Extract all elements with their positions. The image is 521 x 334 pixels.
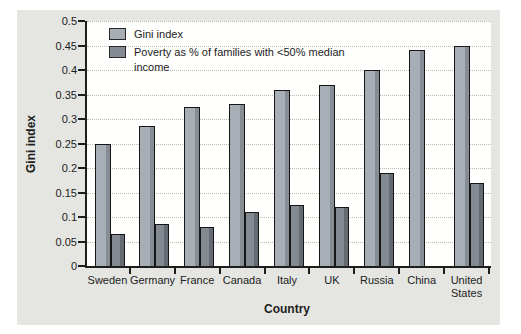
- x-category-label-united-states: United States: [444, 274, 489, 300]
- legend-item-gini: Gini index: [109, 27, 346, 41]
- x-category-label-canada: Canada: [220, 274, 265, 287]
- y-tick-mark-0.4: [78, 69, 85, 71]
- y-tick-label-0: 0: [25, 260, 77, 272]
- y-tick-mark-0.5: [78, 20, 85, 22]
- bar-gini-france: [184, 107, 200, 266]
- bar-poverty-canada: [245, 212, 259, 266]
- y-tick-mark-0.35: [78, 94, 85, 96]
- y-tick-label-0.25: 0.25: [25, 138, 77, 150]
- x-category-label-germany: Germany: [130, 274, 175, 287]
- y-tick-label-0.2: 0.2: [25, 162, 77, 174]
- gridline-0.5: [87, 21, 491, 22]
- bar-poverty-uk: [335, 207, 349, 266]
- x-category-label-china: China: [399, 274, 444, 287]
- y-tick-label-0.5: 0.5: [25, 15, 77, 27]
- y-tick-label-0.4: 0.4: [25, 64, 77, 76]
- bar-gini-russia: [364, 70, 380, 266]
- y-tick-mark-0.2: [78, 167, 85, 169]
- legend-swatch-gini: [109, 28, 126, 40]
- legend-label-poverty: Poverty as % of families with <50% media…: [134, 45, 346, 74]
- x-axis-title: Country: [85, 302, 489, 316]
- bar-gini-china: [409, 50, 425, 266]
- bar-poverty-germany: [155, 224, 169, 266]
- y-tick-mark-0.3: [78, 118, 85, 120]
- y-tick-mark-0.1: [78, 216, 85, 218]
- bar-gini-germany: [139, 126, 155, 266]
- y-tick-label-0.45: 0.45: [25, 40, 77, 52]
- legend: Gini index Poverty as % of families with…: [109, 27, 346, 78]
- y-tick-mark-0.15: [78, 192, 85, 194]
- bar-poverty-united-states: [470, 183, 484, 266]
- bar-poverty-sweden: [111, 234, 125, 266]
- y-tick-label-0.15: 0.15: [25, 187, 77, 199]
- y-tick-mark-0: [78, 265, 85, 267]
- y-tick-label-0.05: 0.05: [25, 236, 77, 248]
- y-tick-mark-0.05: [78, 241, 85, 243]
- y-tick-label-0.35: 0.35: [25, 89, 77, 101]
- plot-area: Gini index Poverty as % of families with…: [85, 21, 491, 268]
- x-category-label-russia: Russia: [354, 274, 399, 287]
- legend-item-poverty: Poverty as % of families with <50% media…: [109, 45, 346, 74]
- y-tick-mark-0.45: [78, 45, 85, 47]
- legend-swatch-poverty: [109, 46, 126, 58]
- x-category-label-uk: UK: [309, 274, 354, 287]
- y-tick-label-0.3: 0.3: [25, 113, 77, 125]
- bar-gini-united-states: [454, 46, 470, 267]
- bar-gini-italy: [274, 90, 290, 266]
- bar-gini-uk: [319, 85, 335, 266]
- y-tick-label-0.1: 0.1: [25, 211, 77, 223]
- x-category-label-italy: Italy: [265, 274, 310, 287]
- x-category-label-france: France: [175, 274, 220, 287]
- figure-panel: Gini index Gini index Poverty as % of fa…: [17, 10, 500, 325]
- bar-poverty-italy: [290, 205, 304, 266]
- y-tick-mark-0.25: [78, 143, 85, 145]
- x-category-label-sweden: Sweden: [85, 274, 130, 287]
- bar-poverty-france: [200, 227, 214, 266]
- bar-poverty-russia: [380, 173, 394, 266]
- bar-gini-canada: [229, 104, 245, 266]
- bar-gini-sweden: [95, 144, 111, 267]
- legend-label-gini: Gini index: [134, 27, 183, 41]
